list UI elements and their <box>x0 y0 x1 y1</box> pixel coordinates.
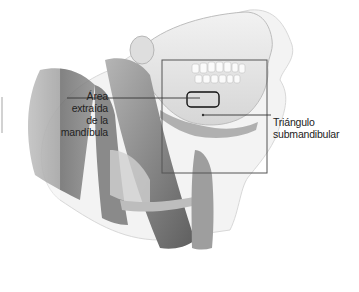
label-line: extraída <box>52 102 108 114</box>
label-line: Triángulo <box>273 116 339 128</box>
label-line: Área <box>52 90 108 102</box>
submandibular-point <box>202 114 204 116</box>
label-line: submandibular <box>273 128 339 140</box>
ear-region <box>130 36 154 64</box>
neck-jaw-illustration <box>0 0 359 292</box>
label-extracted-area: Área extraída de la mandíbula <box>52 90 108 138</box>
anatomy-figure: Área extraída de la mandíbula Triángulo … <box>0 0 359 292</box>
label-line: mandíbula <box>52 126 108 138</box>
label-line: de la <box>52 114 108 126</box>
label-submandibular-triangle: Triángulo submandibular <box>273 116 339 140</box>
